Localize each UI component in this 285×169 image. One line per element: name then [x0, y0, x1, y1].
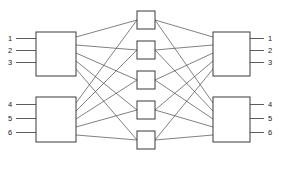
clos-network-diagram: 123123456456	[0, 0, 285, 169]
egress-switch-box	[213, 32, 250, 76]
output-label: 4	[268, 100, 272, 109]
stage1-link-group	[76, 20, 137, 140]
stage1-link	[76, 45, 137, 50]
output-label: 6	[268, 128, 272, 137]
stage1-link	[76, 50, 137, 111]
input-label: 5	[8, 114, 12, 123]
stage2-link	[155, 110, 213, 127]
ingress-switch-box	[36, 97, 76, 142]
input-label: 6	[8, 128, 12, 137]
stage2-link	[155, 20, 213, 37]
ingress-switch-box	[36, 32, 76, 76]
stage1-link	[76, 20, 137, 103]
stage1-link	[76, 53, 137, 80]
output-label: 5	[268, 114, 272, 123]
stage1-link	[76, 69, 137, 140]
stage2-link	[155, 45, 213, 50]
middle-switch-box	[137, 11, 155, 29]
egress-switch-box	[213, 97, 250, 142]
middle-switch-box	[137, 71, 155, 89]
stage1-link	[76, 20, 137, 37]
stage1-link	[76, 110, 137, 127]
middle-switch-box	[137, 101, 155, 119]
stage2-link	[155, 69, 213, 140]
stage1-link	[76, 135, 137, 140]
input-label: 1	[8, 34, 12, 43]
stage2-link	[155, 20, 213, 103]
switch-box-group	[36, 11, 250, 149]
stage2-link	[155, 135, 213, 140]
stage2-link	[155, 50, 213, 111]
stage2-link-group	[155, 20, 213, 140]
stage2-link	[155, 53, 213, 80]
middle-switch-box	[137, 41, 155, 59]
input-label: 4	[8, 100, 12, 109]
output-label: 1	[268, 34, 272, 43]
clos-network-canvas: 123123456456	[0, 0, 285, 169]
output-label: 3	[268, 58, 272, 67]
input-label: 3	[8, 58, 12, 67]
output-label: 2	[268, 46, 272, 55]
input-label: 2	[8, 46, 12, 55]
middle-switch-box	[137, 131, 155, 149]
